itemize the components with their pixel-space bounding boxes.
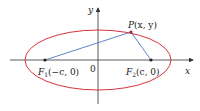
focus-2-label: F2(c, 0): [125, 67, 160, 78]
x-axis-label: x: [185, 66, 190, 76]
focus-2-point: [149, 58, 152, 61]
ellipse-diagram: y x 0 P(x, y) F1(−c, 0) F2(c, 0): [0, 0, 200, 111]
point-p: [129, 30, 132, 33]
focus-1-point: [43, 58, 46, 61]
focus-1-label: F1(−c, 0): [37, 67, 79, 78]
segment-f1-p: [45, 32, 131, 60]
origin-label: 0: [90, 64, 96, 74]
point-p-label: P(x, y): [127, 20, 157, 30]
y-axis-label: y: [87, 5, 94, 15]
